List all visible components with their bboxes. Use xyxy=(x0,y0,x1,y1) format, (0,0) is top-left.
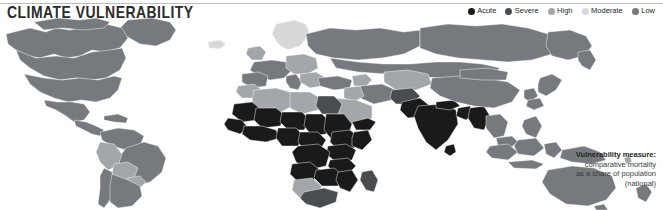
region-scandinavia[interactable] xyxy=(272,20,310,50)
map-caption: Vulnerability measure: comparative morta… xyxy=(536,150,656,188)
region-caribbean[interactable] xyxy=(104,114,128,123)
region-central-europe[interactable] xyxy=(286,54,318,74)
legend-item-high[interactable]: High xyxy=(548,7,573,15)
region-greenland[interactable] xyxy=(120,18,176,46)
region-kamchatka[interactable] xyxy=(578,50,596,70)
caption-title: Vulnerability measure: xyxy=(536,150,656,160)
legend-dot-high xyxy=(548,8,555,15)
region-madagascar[interactable] xyxy=(360,170,378,192)
region-canada-north[interactable] xyxy=(34,18,110,30)
region-tasmania[interactable] xyxy=(594,204,608,210)
region-iceland[interactable] xyxy=(208,40,226,49)
region-libya[interactable] xyxy=(290,92,320,114)
legend-dot-acute xyxy=(468,8,475,15)
caption-line-1: comparative mortality xyxy=(536,160,656,170)
legend-item-acute[interactable]: Acute xyxy=(468,7,497,15)
region-mongolia[interactable] xyxy=(460,68,508,80)
region-somalia[interactable] xyxy=(352,130,372,150)
region-mozambique[interactable] xyxy=(336,170,358,192)
legend-label-severe: Severe xyxy=(515,7,539,15)
region-philippines[interactable] xyxy=(522,116,542,138)
region-west-africa-coast[interactable] xyxy=(242,126,280,142)
region-iran[interactable] xyxy=(360,84,396,104)
legend-dot-severe xyxy=(505,8,512,15)
region-sumatra[interactable] xyxy=(486,144,518,160)
legend-dot-moderate xyxy=(582,8,589,15)
region-russia-east[interactable] xyxy=(420,24,560,62)
legend-item-low[interactable]: Low xyxy=(632,7,655,15)
legend-label-acute: Acute xyxy=(477,7,496,15)
legend-label-low: Low xyxy=(641,7,655,15)
region-japan-south[interactable] xyxy=(526,98,544,110)
infographic-canvas: CLIMATE VULNERABILITY Acute Severe High … xyxy=(0,0,663,210)
legend-label-high: High xyxy=(557,7,572,15)
legend-item-severe[interactable]: Severe xyxy=(505,7,538,15)
legend-label-moderate: Moderate xyxy=(591,7,623,15)
region-caucasus[interactable] xyxy=(352,74,372,86)
caption-line-2: as a share of population xyxy=(536,169,656,179)
region-italy[interactable] xyxy=(286,74,302,90)
region-russia-west[interactable] xyxy=(306,28,420,60)
legend-item-moderate[interactable]: Moderate xyxy=(582,7,623,15)
region-thailand-vietnam[interactable] xyxy=(486,114,508,138)
region-india[interactable] xyxy=(414,104,458,150)
legend-dot-low xyxy=(632,8,639,15)
region-japan[interactable] xyxy=(538,74,562,96)
region-sri-lanka[interactable] xyxy=(444,144,456,156)
region-mexico[interactable] xyxy=(44,100,90,122)
region-central-america[interactable] xyxy=(74,120,104,136)
caption-line-3: (national) xyxy=(536,179,656,189)
region-uk-ireland[interactable] xyxy=(246,46,266,60)
